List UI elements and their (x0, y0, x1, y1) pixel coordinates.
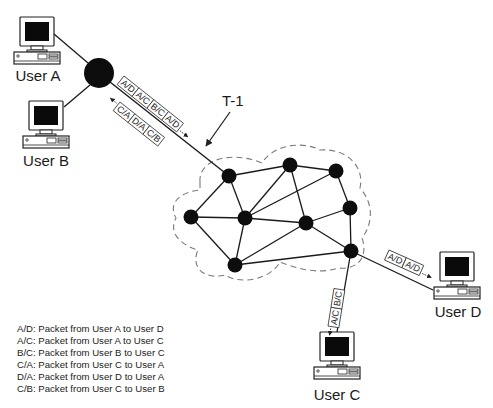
switch-node[interactable] (344, 244, 359, 259)
packet-stream-to-user-c: A/C B/C (327, 288, 345, 336)
user-a-label: User A (15, 67, 60, 84)
switch-node[interactable] (222, 169, 237, 184)
switch-node[interactable] (228, 258, 243, 273)
switch-node[interactable] (299, 216, 314, 231)
legend-item: C/A: Packet from User C to User A (17, 359, 165, 371)
switch-node[interactable] (329, 164, 344, 179)
t1-trunk-link[interactable] (110, 82, 229, 176)
computer-user-b[interactable] (23, 101, 69, 148)
switch-node[interactable] (343, 201, 358, 216)
switch-node[interactable] (283, 158, 298, 173)
t1-pointer-arrow (206, 112, 230, 146)
user-c-label: User C (314, 386, 361, 403)
t1-link-label: T-1 (222, 92, 244, 109)
packet-stream-to-user-d: A/D A/D (385, 250, 435, 280)
link-user-b-hub (64, 85, 90, 107)
user-b-label: User B (23, 152, 69, 169)
legend-item: A/C: Packet from User A to User C (17, 335, 165, 347)
multiplexer-hub[interactable] (84, 58, 114, 88)
network-nodes (184, 158, 359, 273)
legend-item: C/B: Packet from User C to User B (17, 383, 165, 395)
mesh-links (191, 165, 351, 265)
legend-item: A/D: Packet from User A to User D (17, 323, 165, 335)
legend-item: B/C: Packet from User B to User C (17, 347, 165, 359)
switch-node[interactable] (238, 211, 253, 226)
computer-user-d[interactable] (434, 252, 480, 299)
user-d-label: User D (435, 303, 482, 320)
computer-user-a[interactable] (14, 17, 60, 64)
computer-user-c[interactable] (314, 332, 360, 379)
legend-item: D/A: Packet from User D to User A (17, 371, 165, 383)
switch-node[interactable] (184, 210, 199, 225)
packet-legend: A/D: Packet from User A to User D A/C: P… (17, 323, 165, 396)
